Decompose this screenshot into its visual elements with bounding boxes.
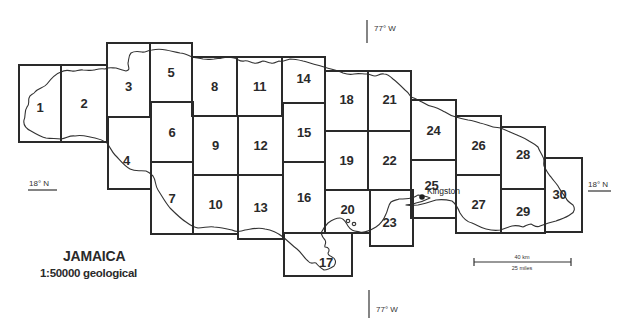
city-dot-icon xyxy=(419,194,425,200)
sheet-number: 27 xyxy=(472,197,486,212)
sheet-index-map: 1234567891011121314151617181920212223242… xyxy=(0,0,630,334)
map-sheet-16[interactable]: 16 xyxy=(283,162,325,233)
sheet-number: 4 xyxy=(123,153,131,168)
sheet-grid: 1234567891011121314151617181920212223242… xyxy=(19,43,582,276)
sheet-number: 10 xyxy=(209,197,223,212)
sheet-number: 11 xyxy=(253,79,266,94)
map-sheet-27[interactable]: 27 xyxy=(456,175,501,233)
map-sheet-20[interactable]: 20 xyxy=(325,190,370,233)
map-sheet-21[interactable]: 21 xyxy=(368,71,411,131)
sheet-number: 18 xyxy=(340,92,354,107)
map-sheet-7[interactable]: 7 xyxy=(151,162,193,234)
meridian-label-top: 77° W xyxy=(374,24,396,33)
map-sheet-8[interactable]: 8 xyxy=(192,57,237,116)
sheet-number: 2 xyxy=(81,96,88,111)
map-sheet-4[interactable]: 4 xyxy=(108,117,151,189)
meridian-label-bottom: 77° W xyxy=(376,305,398,314)
sheet-outline[interactable] xyxy=(284,233,352,276)
sheet-number: 22 xyxy=(383,153,397,168)
map-sheet-6[interactable]: 6 xyxy=(151,102,193,162)
sheet-number: 3 xyxy=(125,79,132,94)
map-sheet-17[interactable]: 17 xyxy=(284,233,352,276)
map-sheet-1[interactable]: 1 xyxy=(19,65,61,142)
sheet-number: 7 xyxy=(169,191,176,206)
map-subtitle: 1:50000 geological xyxy=(40,267,137,279)
scale-km-label: 40 km xyxy=(515,254,530,260)
parallel-label-left: 18° N xyxy=(29,179,49,188)
sheet-number: 12 xyxy=(254,138,268,153)
map-sheet-18[interactable]: 18 xyxy=(325,71,368,131)
sheet-number: 9 xyxy=(212,138,219,153)
map-sheet-22[interactable]: 22 xyxy=(368,131,411,190)
map-title: JAMAICA xyxy=(63,248,125,264)
scale-miles-label: 25 miles xyxy=(512,265,533,271)
sheet-number: 13 xyxy=(254,200,268,215)
sheet-number: 30 xyxy=(553,187,567,202)
sheet-number: 24 xyxy=(427,123,442,138)
map-sheet-26[interactable]: 26 xyxy=(456,116,501,175)
parallel-label-right: 18° N xyxy=(588,180,608,189)
map-sheet-24[interactable]: 24 xyxy=(411,100,456,160)
sheet-number: 6 xyxy=(169,125,176,140)
sheet-number: 17 xyxy=(319,255,333,270)
sheet-number: 16 xyxy=(297,190,311,205)
map-sheet-15[interactable]: 15 xyxy=(283,103,325,162)
sheet-number: 8 xyxy=(211,79,218,94)
scale-bar: 40 km 25 miles xyxy=(474,254,571,271)
sheet-number: 23 xyxy=(383,215,397,230)
map-sheet-9[interactable]: 9 xyxy=(193,116,238,175)
sheet-number: 26 xyxy=(472,138,486,153)
map-sheet-30[interactable]: 30 xyxy=(545,158,582,232)
sheet-number: 1 xyxy=(37,100,44,115)
map-sheet-12[interactable]: 12 xyxy=(238,116,283,175)
cay-islet xyxy=(352,222,356,225)
map-sheet-11[interactable]: 11 xyxy=(237,57,282,116)
map-sheet-28[interactable]: 28 xyxy=(501,127,545,189)
sheet-number: 14 xyxy=(297,71,312,86)
map-sheet-3[interactable]: 3 xyxy=(107,43,150,117)
cay-islet xyxy=(346,219,350,222)
kingston-label: Kingston xyxy=(427,186,460,196)
sheet-number: 28 xyxy=(516,147,530,162)
map-sheet-10[interactable]: 10 xyxy=(193,175,238,234)
map-sheet-2[interactable]: 2 xyxy=(61,65,107,142)
map-sheet-19[interactable]: 19 xyxy=(325,131,368,190)
sheet-number: 29 xyxy=(516,204,530,219)
sheet-number: 21 xyxy=(383,92,397,107)
sheet-number: 19 xyxy=(340,153,354,168)
sheet-number: 15 xyxy=(297,125,311,140)
map-sheet-5[interactable]: 5 xyxy=(150,43,192,102)
sheet-number: 20 xyxy=(341,202,355,217)
sheet-number: 5 xyxy=(168,65,175,80)
map-sheet-13[interactable]: 13 xyxy=(238,175,283,239)
map-sheet-14[interactable]: 14 xyxy=(282,57,325,103)
